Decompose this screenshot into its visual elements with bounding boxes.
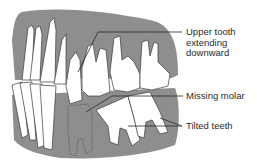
label-line: Missing molar [186,91,245,102]
label-upper-tooth: Upper tooth extending downward [186,27,236,59]
label-line: downward [186,48,236,59]
label-tilted-teeth: Tilted teeth [186,121,233,132]
label-line: Tilted teeth [186,121,233,132]
label-line: Upper tooth [186,27,236,38]
label-missing-molar: Missing molar [186,91,245,102]
